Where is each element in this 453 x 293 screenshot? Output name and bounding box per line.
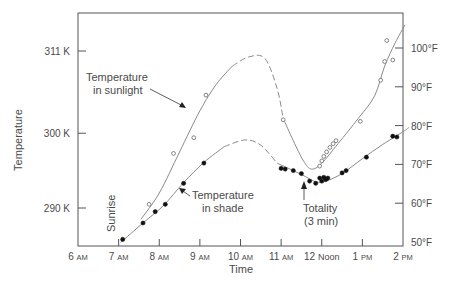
data-point-shade bbox=[121, 237, 125, 241]
y-right-tick-label: 100°F bbox=[411, 43, 438, 54]
y-right-tick-label: 90°F bbox=[411, 82, 432, 93]
data-point-sunlight bbox=[325, 150, 329, 154]
x-tick-label: 7 AM bbox=[109, 251, 129, 262]
data-point-shade bbox=[391, 134, 395, 138]
data-point-sunlight bbox=[391, 58, 395, 62]
eclipse-temperature-chart: 6 AM7 AM8 AM9 AM10 AM11 AM12 Noon1 PM2 P… bbox=[0, 0, 453, 293]
y-axis-title: Temperature bbox=[12, 109, 24, 171]
data-point-sunlight bbox=[322, 155, 326, 159]
data-point-shade bbox=[202, 161, 206, 165]
y-right-tick-label: 70°F bbox=[411, 159, 432, 170]
data-point-sunlight bbox=[318, 164, 322, 168]
annotation-totality: Totality (3 min) bbox=[301, 181, 338, 227]
y-axis-left-ticks: 311 K300 K290 K bbox=[44, 46, 86, 214]
y-axis-right-ticks: 100°F90°F80°F70°F60°F50°F bbox=[395, 43, 438, 248]
x-axis-ticks: 6 AM7 AM8 AM9 AM10 AM11 AM12 Noon1 PM2 P… bbox=[68, 239, 413, 262]
arrowhead-icon bbox=[301, 181, 307, 189]
data-point-shade bbox=[326, 176, 330, 180]
data-point-shade bbox=[364, 155, 368, 159]
data-point-sunlight bbox=[358, 119, 362, 123]
curve-dashed-shade bbox=[224, 140, 277, 163]
y-right-tick-label: 80°F bbox=[411, 121, 432, 132]
curve-sunlight bbox=[283, 25, 405, 169]
data-point-shade bbox=[299, 172, 303, 176]
data-point-shade bbox=[314, 181, 318, 185]
series-curves bbox=[121, 25, 409, 243]
data-point-shade bbox=[279, 166, 283, 170]
data-point-shade bbox=[182, 181, 186, 185]
annotation-shade: Temperature in shade bbox=[179, 188, 254, 214]
x-tick-label: 1 PM bbox=[353, 251, 373, 262]
data-point-shade bbox=[291, 169, 295, 173]
y-left-tick-label: 300 K bbox=[44, 128, 70, 139]
data-point-shade bbox=[340, 171, 344, 175]
data-point-sunlight bbox=[334, 139, 338, 143]
svg-text:(3 min): (3 min) bbox=[304, 215, 338, 227]
curve-dashed-sunlight bbox=[232, 55, 283, 118]
data-point-shade bbox=[308, 179, 312, 183]
y-right-tick-label: 50°F bbox=[411, 237, 432, 248]
svg-text:Temperature: Temperature bbox=[192, 189, 254, 201]
x-tick-label: 9 AM bbox=[190, 251, 210, 262]
data-point-sunlight bbox=[379, 78, 383, 82]
x-tick-label: 10 AM bbox=[228, 251, 253, 262]
x-tick-label: 8 AM bbox=[149, 251, 169, 262]
data-point-sunlight bbox=[172, 152, 176, 156]
annotation-sunlight: Temperature in sunlight bbox=[86, 71, 186, 108]
svg-text:Temperature: Temperature bbox=[86, 71, 148, 83]
data-point-sunlight bbox=[320, 159, 324, 163]
data-point-shade bbox=[395, 135, 399, 139]
y-right-tick-label: 60°F bbox=[411, 198, 432, 209]
data-point-sunlight bbox=[147, 202, 151, 206]
data-point-sunlight bbox=[281, 118, 285, 122]
data-point-shade bbox=[153, 210, 157, 214]
data-point-shade bbox=[320, 179, 324, 183]
y-left-tick-label: 311 K bbox=[45, 46, 71, 57]
arrowhead-icon bbox=[179, 188, 186, 194]
svg-text:in sunlight: in sunlight bbox=[93, 84, 143, 96]
x-axis-title: Time bbox=[229, 263, 253, 275]
data-point-sunlight bbox=[385, 39, 389, 43]
x-tick-label: 2 PM bbox=[393, 251, 413, 262]
x-tick-label: 6 AM bbox=[68, 251, 88, 262]
x-tick-label: 11 AM bbox=[269, 251, 293, 262]
svg-text:Totality: Totality bbox=[303, 202, 338, 214]
data-point-shade bbox=[141, 221, 145, 225]
series-markers bbox=[121, 39, 399, 242]
data-point-shade bbox=[163, 202, 167, 206]
data-point-sunlight bbox=[192, 136, 196, 140]
data-point-shade bbox=[283, 167, 287, 171]
data-point-shade bbox=[344, 169, 348, 173]
arrow-sunlight bbox=[150, 89, 185, 107]
y-left-tick-label: 290 K bbox=[44, 203, 70, 214]
data-point-sunlight bbox=[204, 93, 208, 97]
data-point-sunlight bbox=[328, 146, 332, 150]
x-tick-label: 12 Noon bbox=[304, 251, 339, 262]
arrowhead-icon bbox=[179, 102, 186, 108]
svg-text:in shade: in shade bbox=[202, 202, 244, 214]
annotation-sunrise: Sunrise bbox=[105, 195, 117, 232]
data-point-sunlight bbox=[383, 60, 387, 64]
